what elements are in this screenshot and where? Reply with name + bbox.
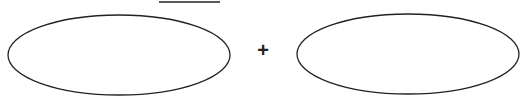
- plus-operator: +: [254, 40, 272, 60]
- right-ellipse: [297, 14, 519, 94]
- left-ellipse: [8, 15, 230, 95]
